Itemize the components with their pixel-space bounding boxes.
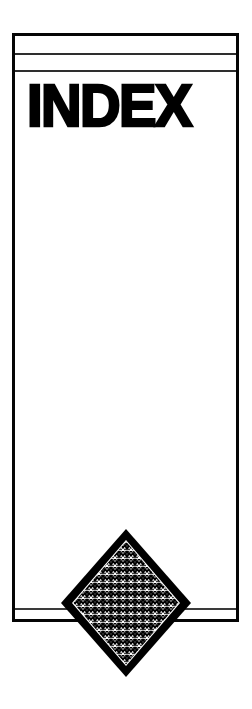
index-body-content bbox=[15, 134, 16, 135]
header-rule-top bbox=[15, 53, 236, 55]
index-label-page: INDEX bbox=[0, 0, 252, 709]
page-title: INDEX bbox=[27, 80, 191, 131]
title-band: INDEX bbox=[15, 72, 236, 134]
diamond-pattern-fill bbox=[74, 542, 179, 665]
diamond-emblem bbox=[59, 527, 193, 679]
diamond-emblem-svg bbox=[59, 527, 193, 679]
